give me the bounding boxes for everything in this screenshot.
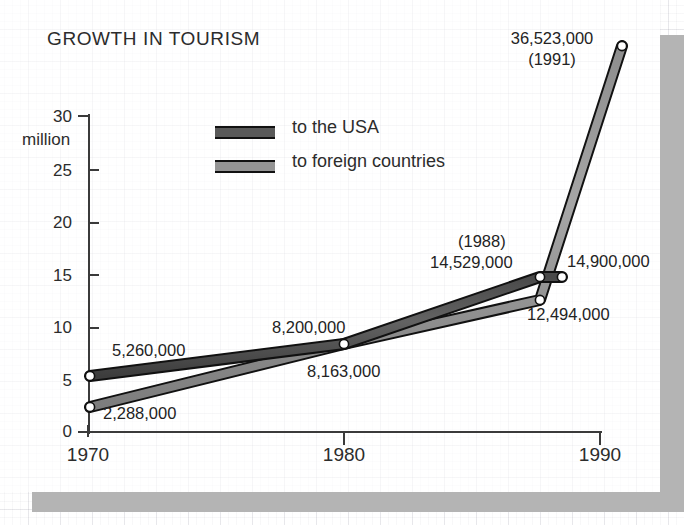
- chart-figure: GROWTH IN TOURISM 30 million 25 20 15 10…: [0, 0, 684, 525]
- annotation-usa-1970-value: 5,260,000: [112, 341, 185, 359]
- annotation-foreign-1970-value: 2,288,000: [103, 404, 176, 422]
- annotation-foreign-1980-value: 8,200,000: [272, 318, 345, 336]
- legend-label-usa: to the USA: [292, 117, 379, 138]
- annotation-usa-1988-value: 12,494,000: [527, 305, 610, 323]
- legend-swatch-icon-usa: [215, 126, 275, 139]
- marker-usa-1988: [535, 295, 544, 304]
- marker-foreign-1988: [535, 272, 544, 281]
- annotation-foreign-1991-year: (1991): [487, 50, 617, 68]
- marker-usa-1990: [557, 272, 566, 281]
- annotation-foreign-1988-year: (1988): [458, 232, 506, 250]
- annotation-foreign-1988-value: 14,529,000: [430, 253, 513, 271]
- marker-crossover-1980: [339, 339, 348, 348]
- annotation-usa-1990-value: 14,900,000: [567, 252, 650, 270]
- marker-foreign-1991: [617, 41, 626, 50]
- marker-foreign-1970: [85, 402, 94, 411]
- legend-label-foreign: to foreign countries: [292, 151, 445, 172]
- annotation-foreign-1991-value: 36,523,000: [487, 29, 617, 47]
- legend-swatch-icon-foreign: [215, 160, 275, 173]
- annotation-usa-1980-value: 8,163,000: [307, 362, 380, 380]
- marker-usa-1970: [85, 371, 94, 380]
